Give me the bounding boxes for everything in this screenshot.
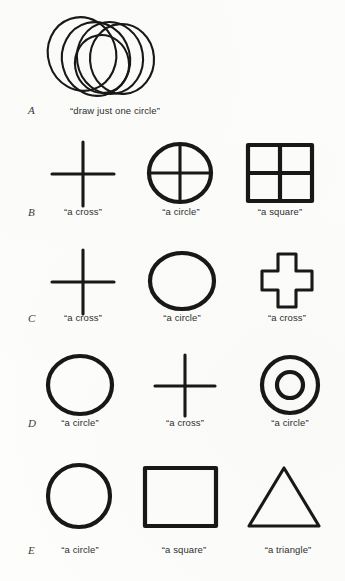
row-label-d: D (28, 417, 36, 429)
caption-d-2: “a cross” (152, 417, 218, 428)
figure-row-c: C “a cross” “a circle” (0, 240, 345, 345)
caption-b-1: “a cross” (48, 206, 118, 217)
drawing-triangle-e3 (244, 464, 324, 544)
drawing-cross-b1 (48, 140, 118, 206)
drawing-circle-with-internal-cross (146, 142, 216, 204)
caption-b-3: “a square” (245, 206, 315, 217)
drawing-square-with-internal-cross (245, 142, 315, 204)
caption-c-1: “a cross” (48, 312, 118, 323)
figure-row-e: E -Г “a circle” -Т “a square” (0, 450, 345, 581)
drawing-cross-c1 (48, 248, 118, 314)
row-label-c: C (28, 312, 36, 324)
caption-b-2: “a circle” (146, 206, 216, 217)
caption-d-1: “a circle” (44, 417, 116, 428)
drawing-plus-polygon-outline (258, 250, 316, 312)
caption-c-2: “a circle” (146, 312, 218, 323)
figure-row-a: A “draw just one circle” (0, 0, 345, 130)
caption-c-3: “a cross” (250, 312, 324, 323)
caption-e-3: “a triangle” (248, 544, 328, 555)
drawing-concentric-circles (258, 353, 322, 417)
drawing-square-e2 (142, 464, 222, 544)
drawing-cross-d2 (152, 353, 218, 417)
perseveration-figure: A “draw just one circle” B (0, 0, 345, 581)
caption-d-3: “a circle” (254, 417, 326, 428)
drawing-multiple-overlapping-circles (40, 12, 170, 102)
figure-row-b: B “a cross” “a circle” (0, 130, 345, 240)
caption-e-2: “a square” (146, 544, 222, 555)
caption-a-1: “draw just one circle” (15, 105, 215, 116)
caption-e-1: “a circle” (44, 544, 116, 555)
drawing-circle-c2 (146, 250, 218, 312)
drawing-circle-d1 (44, 353, 116, 417)
figure-row-d: D “a circle” “a cross” (0, 345, 345, 450)
row-label-b: B (28, 206, 35, 218)
drawing-circle-e1 (44, 458, 116, 538)
row-label-e: E (28, 544, 35, 556)
